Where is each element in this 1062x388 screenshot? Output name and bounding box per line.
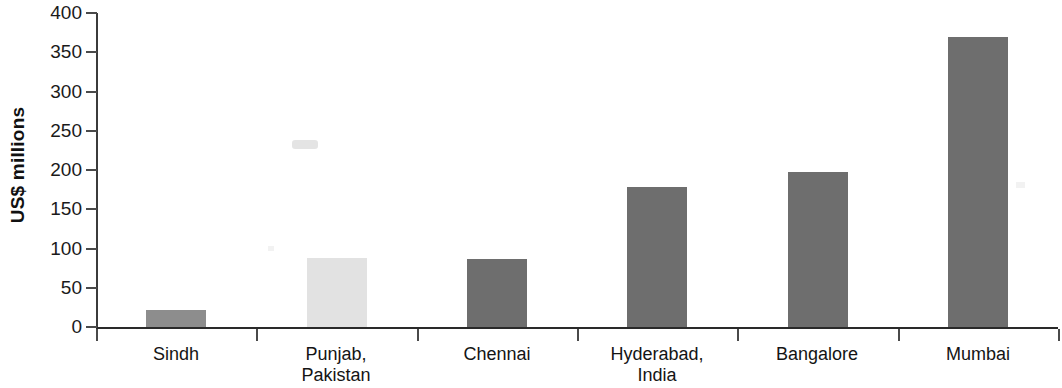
x-axis-separator-tick [737,329,739,341]
scan-artifact-speck [1016,182,1025,188]
x-axis-separator-tick [417,329,419,341]
bar-punjab-pakistan [307,258,367,327]
bar-hyderabad-india [627,187,687,327]
x-category-label: Bangalore [737,344,897,365]
x-axis-separator-tick [577,329,579,341]
scan-artifact-smudge [292,140,318,149]
y-axis-title-text: US$ millions [7,107,29,223]
x-axis-separator-tick [256,329,258,341]
y-tick-label-100: 100 [30,239,82,258]
y-tick-label-400: 400 [30,3,82,22]
y-tick-label-150: 150 [30,199,82,218]
y-tick-label-250: 250 [30,121,82,140]
bar-mumbai [948,37,1008,327]
plot-area [96,13,1058,327]
y-tick-label-50: 50 [30,278,82,297]
x-category-label: Punjab,Pakistan [256,344,416,386]
x-category-label-line: Hyderabad, [610,344,703,364]
y-tick-label-0: 0 [30,317,82,336]
x-category-label: Chennai [417,344,577,365]
x-category-label-line: Mumbai [946,344,1010,364]
x-category-label: Sindh [96,344,256,365]
x-axis-separator-tick [898,329,900,341]
y-tick-label-350: 350 [30,42,82,61]
x-category-label-line: Pakistan [256,365,416,386]
y-tick-label-300: 300 [30,82,82,101]
bar-chennai [467,259,527,327]
x-axis-separator-tick [96,329,98,341]
bar-bangalore [788,172,848,327]
x-axis-separator-tick [1058,329,1060,341]
x-category-label-line: India [577,365,737,386]
x-category-label: Hyderabad,India [577,344,737,386]
y-tick-label-200: 200 [30,160,82,179]
bar-sindh [146,310,206,327]
x-category-label-line: Sindh [153,344,199,364]
bar-chart: US$ millions 050100150200250300350400 Si… [0,0,1062,388]
x-category-label-line: Chennai [463,344,530,364]
x-category-label-line: Bangalore [776,344,858,364]
scan-artifact-speck [268,246,274,251]
x-category-label-line: Punjab, [305,344,366,364]
x-category-label: Mumbai [898,344,1058,365]
